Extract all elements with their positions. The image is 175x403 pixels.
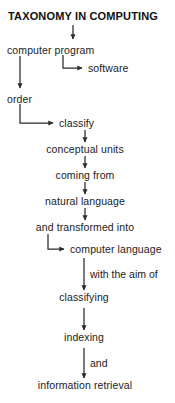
edge-order-to-classify: [20, 104, 53, 123]
taxonomy-in-computing-diagram: TAXONOMY IN COMPUTING: [0, 0, 175, 403]
diagram-title: TAXONOMY IN COMPUTING: [8, 10, 158, 22]
edge-label-with-the-aim-of: with the aim of: [90, 268, 158, 280]
node-classifying: classifying: [59, 291, 109, 303]
node-information-retrieval: information retrieval: [38, 379, 132, 391]
node-conceptual-units: conceptual units: [46, 143, 123, 155]
edge-label-and: and: [90, 357, 108, 369]
node-natural-language: natural language: [45, 195, 125, 207]
edge-and-transformed-into-to-computer-language: [48, 234, 64, 249]
node-indexing: indexing: [64, 331, 104, 343]
node-coming-from: coming from: [56, 169, 115, 181]
node-computer-language: computer language: [70, 243, 162, 255]
node-classify: classify: [59, 117, 94, 129]
edge-computer-program-to-software: [63, 55, 82, 68]
node-order: order: [7, 93, 32, 105]
node-software: software: [88, 62, 128, 74]
node-and-transformed-into: and transformed into: [36, 221, 134, 233]
node-computer-program: computer program: [7, 44, 94, 56]
